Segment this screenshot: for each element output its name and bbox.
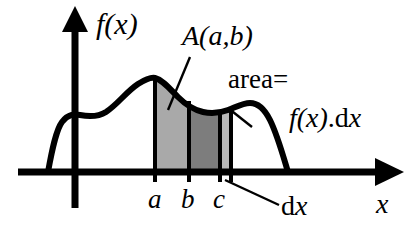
x-axis-label: x	[376, 190, 388, 218]
area-function-label: A(a,b)	[182, 22, 253, 50]
differential-d-part: d	[281, 190, 295, 221]
integrand-d-part: d	[335, 102, 349, 133]
area-equals-label: area=	[228, 66, 288, 93]
integrand-x-part: x	[349, 102, 361, 133]
integrand-fx-part: f(x)	[289, 102, 328, 133]
leader-dx	[225, 180, 279, 205]
integrand-dot-part: .	[328, 102, 335, 133]
tick-label-b: b	[181, 186, 195, 213]
integrand-expression-label: f(x).dx	[289, 104, 361, 132]
region-b-to-c	[189, 60, 220, 172]
y-axis-label: f(x)	[96, 9, 138, 39]
differential-label: dx	[281, 192, 307, 220]
integral-area-figure: f(x) A(a,b) area= f(x).dx a b c dx x	[0, 0, 413, 233]
differential-x-part: x	[295, 190, 307, 221]
x-axis-arrowhead	[375, 158, 404, 186]
y-axis-arrowhead	[62, 6, 88, 32]
tick-label-a: a	[148, 186, 162, 213]
tick-label-c: c	[213, 186, 225, 213]
